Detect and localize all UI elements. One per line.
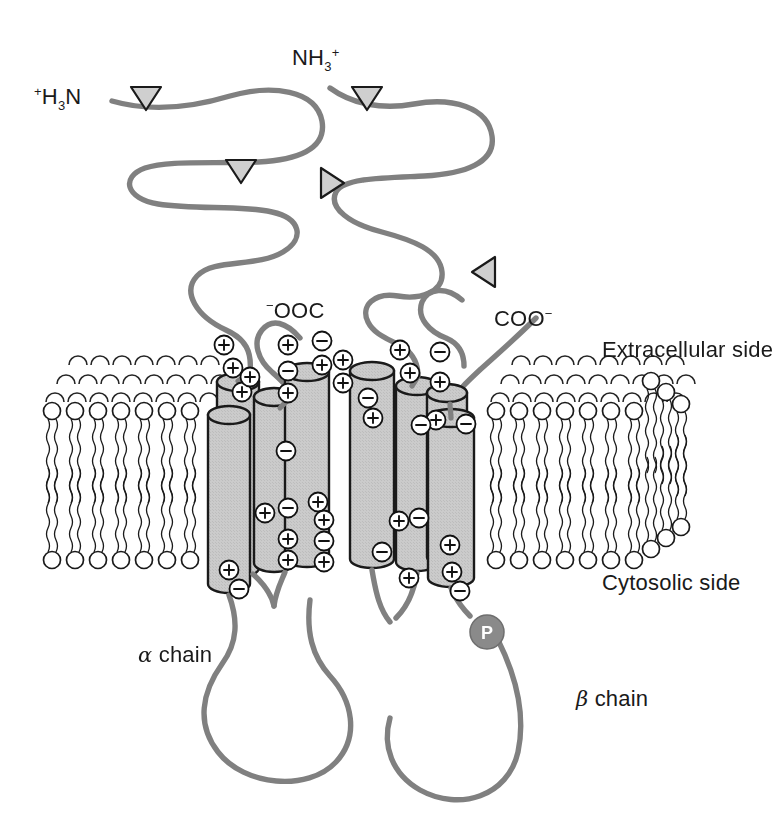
label-extracellular-side: Extracellular side <box>602 337 773 363</box>
label-cytosolic-side: Cytosolic side <box>602 570 741 596</box>
helix-cylinder <box>428 409 474 587</box>
label-alpha-chain: α chain <box>138 642 212 668</box>
label-alpha-n-terminus: +H3N <box>34 84 81 113</box>
phosphate-group: P <box>470 615 504 649</box>
label-beta-n-terminus: NH3+ <box>292 45 339 74</box>
label-beta-chain: β chain <box>576 686 648 712</box>
label-beta-c-terminus: COO− <box>494 306 553 332</box>
phosphate-letter: P <box>481 623 493 643</box>
label-alpha-c-terminus: −OOC <box>266 298 325 324</box>
